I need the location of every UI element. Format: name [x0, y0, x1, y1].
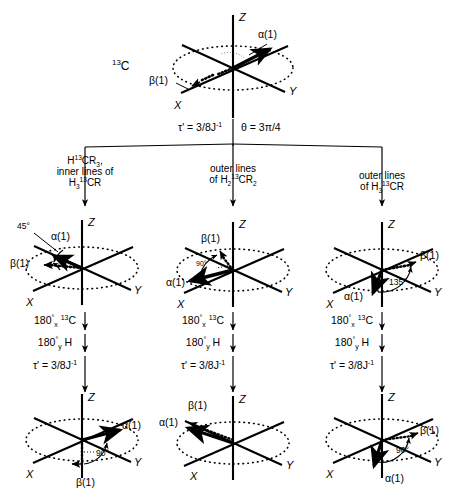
tau-label-top: τ' = 3/8J-1 — [178, 122, 222, 134]
alpha-label-mid-left: α(1) — [51, 231, 70, 243]
frame-mid-center — [177, 222, 289, 307]
pulse-13c-label-0: 180°x 13C — [34, 315, 76, 327]
nucleus-superscript: 13 — [112, 58, 121, 67]
tau-label-2: τ' = 3/8J-1 — [330, 360, 374, 372]
axis-label-y-bot-center: Y — [286, 459, 293, 471]
column-header-2-line2: of H313CR — [359, 181, 405, 192]
beta-label-bot-left: β(1) — [76, 477, 95, 489]
frame-mid-right — [326, 222, 438, 307]
pulse-h-label-1: 180°y H — [186, 337, 220, 349]
axis-label-y-mid-right: Y — [434, 286, 441, 298]
beta-label-bot-center: β(1) — [188, 400, 207, 412]
frame-bot-left — [26, 394, 138, 478]
frame-mid-left — [26, 220, 138, 305]
axis-label-z-mid-left: Z — [88, 216, 95, 228]
axis-label-z-top: Z — [239, 11, 246, 23]
pulse-13c-label-2: 180°x 13C — [331, 315, 373, 327]
diagram-lineart — [0, 0, 462, 504]
beta-label-mid-right: β(1) — [420, 250, 439, 262]
column-header-0-line1: H13CR3, — [57, 155, 114, 166]
figure-canvas: 13C Z X Y α(1) β(1) τ' = 3/8J-1 θ = 3π/4… — [0, 0, 462, 504]
axis-label-z-bot-center: Z — [239, 393, 246, 405]
axis-label-z-mid-center: Z — [239, 218, 246, 230]
angle-label-mid-left: 45° — [17, 222, 30, 232]
column-header-0: H13CR3, inner lines of H313CR — [57, 155, 114, 189]
alpha-label-mid-center: α(1) — [166, 277, 185, 289]
theta-label-top: θ = 3π/4 — [241, 122, 281, 134]
alpha-label-mid-right: α(1) — [344, 291, 363, 303]
angle-label-mid-right: 135° — [389, 278, 407, 288]
axis-label-x-bot-left: X — [26, 468, 33, 480]
axis-label-z-mid-right: Z — [388, 218, 395, 230]
axis-label-x-mid-left: X — [26, 296, 33, 308]
angle-label-bot-right: 90° — [396, 446, 409, 456]
axis-label-y-bot-right: Y — [434, 456, 441, 468]
axis-label-y-mid-left: Y — [134, 284, 141, 296]
beta-label-bot-right: β(1) — [420, 425, 439, 437]
beta-label-mid-left: β(1) — [10, 258, 29, 270]
angle-label-mid-center: 90° — [196, 260, 207, 268]
axis-label-x-top: X — [174, 99, 181, 111]
axis-label-x-bot-center: X — [190, 470, 197, 482]
pulse-h-label-2: 180°y H — [335, 337, 369, 349]
nucleus-label: 13C — [112, 60, 129, 73]
pulse-h-label-0: 180°y H — [38, 337, 72, 349]
axis-label-x-mid-right: X — [326, 298, 333, 310]
column-header-1-line2: of H213CR2 — [209, 174, 256, 185]
axis-label-y-top: Y — [289, 85, 296, 97]
tau-label-1: τ' = 3/8J-1 — [181, 360, 225, 372]
pulse-13c-label-1: 180°x 13C — [182, 315, 224, 327]
column-header-1: outer lines of H213CR2 — [209, 163, 256, 185]
nucleus-element: C — [121, 59, 130, 73]
alpha-label-bot-right: α(1) — [385, 473, 404, 485]
tau-label-0: τ' = 3/8J-1 — [33, 360, 77, 372]
axis-label-z-bot-right: Z — [388, 391, 395, 403]
axis-label-z-bot-left: Z — [88, 391, 95, 403]
column-header-2: outer lines of H313CR — [359, 170, 405, 192]
axis-label-y-mid-center: Y — [285, 286, 292, 298]
alpha-label-bot-left: α(1) — [122, 420, 141, 432]
beta-label-mid-center: β(1) — [201, 233, 220, 245]
axis-label-y-bot-left: Y — [134, 456, 141, 468]
beta-label-top: β(1) — [149, 75, 168, 87]
tau-exponent-top: -1 — [216, 121, 222, 128]
axis-label-x-bot-right: X — [326, 468, 333, 480]
alpha-label-top: α(1) — [258, 29, 277, 41]
tau-text-top: τ' = 3/8J — [178, 121, 216, 133]
column-header-0-line3: H313CR — [57, 177, 114, 188]
angle-label-bot-left: 90° — [96, 449, 109, 459]
axis-label-x-mid-center: X — [177, 298, 184, 310]
alpha-label-bot-center: α(1) — [159, 417, 178, 429]
